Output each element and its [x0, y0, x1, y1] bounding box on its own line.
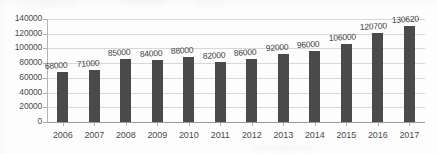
y-axis-tick-mark: [43, 48, 47, 49]
y-axis-tick-mark: [43, 34, 47, 35]
bar-value-label: 71000: [76, 58, 99, 69]
bar-value-label: 85000: [108, 47, 131, 58]
x-axis-tick-label: 2011: [204, 130, 236, 140]
x-axis-tick-label: 2013: [267, 130, 299, 140]
x-axis-tick-label: 2014: [299, 130, 331, 140]
bar: [372, 33, 383, 122]
y-axis-tick-mark: [43, 78, 47, 79]
y-axis-tick-label: 140000: [1, 14, 42, 23]
bar-value-label: 96000: [297, 39, 320, 50]
bar-value-label: 120700: [360, 21, 388, 33]
x-axis-tick-label: 2016: [362, 130, 394, 140]
bar: [152, 60, 163, 122]
bar: [404, 26, 415, 122]
x-axis-tick-label: 2009: [141, 130, 173, 140]
bar-chart: 140000120000100000800006000040000200000 …: [0, 0, 437, 154]
x-axis-tick-label: 2008: [110, 130, 142, 140]
y-axis-tick-label: 60000: [1, 73, 42, 82]
x-axis-tick-mark: [409, 123, 410, 126]
scan-artifact: [250, 146, 320, 151]
x-axis-tick-mark: [378, 123, 379, 126]
y-axis-tick-label: 120000: [1, 29, 42, 38]
bar: [278, 54, 289, 122]
bar: [183, 57, 194, 122]
bar-value-label: 68000: [45, 60, 68, 71]
y-axis-tick-mark: [43, 19, 47, 20]
bar-value-label: 92000: [265, 42, 288, 53]
bar: [57, 72, 68, 122]
x-axis-tick-mark: [63, 123, 64, 126]
x-axis-tick-mark: [252, 123, 253, 126]
y-axis-tick-label: 0: [1, 117, 42, 126]
bar-value-label: 106000: [328, 31, 356, 43]
x-axis-tick-mark: [126, 123, 127, 126]
y-axis-tick-mark: [43, 63, 47, 64]
x-axis-tick-label: 2017: [393, 130, 425, 140]
bar-value-label: 130620: [391, 13, 419, 25]
x-axis-tick-label: 2010: [173, 130, 205, 140]
scan-artifact: [120, 1, 166, 5]
bar: [120, 59, 131, 122]
x-axis-tick-mark: [189, 123, 190, 126]
x-axis-tick-mark: [315, 123, 316, 126]
bar-series: [47, 19, 425, 122]
bar-value-label: 88000: [171, 45, 194, 56]
x-axis-tick-mark: [346, 123, 347, 126]
x-axis-tick-mark: [220, 123, 221, 126]
y-axis-tick-label: 80000: [1, 58, 42, 67]
bar: [215, 62, 226, 122]
y-axis-tick-labels: 140000120000100000800006000040000200000: [0, 0, 42, 154]
x-axis-tick-label: 2012: [236, 130, 268, 140]
y-axis-tick-mark: [43, 122, 47, 123]
y-axis-tick-label: 20000: [1, 102, 42, 111]
bar-value-label: 86000: [234, 46, 257, 57]
x-axis-line: [47, 122, 425, 123]
x-axis-tick-mark: [283, 123, 284, 126]
bar-value-label: 82000: [202, 49, 225, 60]
bar: [341, 44, 352, 122]
y-axis-tick-label: 100000: [1, 43, 42, 52]
x-axis-tick-label: 2007: [78, 130, 110, 140]
y-axis-tick-label: 40000: [1, 88, 42, 97]
bar-value-label: 84000: [139, 48, 162, 59]
y-axis-tick-mark: [43, 93, 47, 94]
x-axis-tick-label: 2015: [330, 130, 362, 140]
bar: [89, 70, 100, 122]
y-axis-tick-mark: [43, 107, 47, 108]
x-axis-tick-mark: [157, 123, 158, 126]
scan-artifact: [196, 3, 226, 7]
bar: [309, 51, 320, 122]
x-axis-tick-mark: [94, 123, 95, 126]
bar: [246, 59, 257, 122]
x-axis-tick-label: 2006: [47, 130, 79, 140]
